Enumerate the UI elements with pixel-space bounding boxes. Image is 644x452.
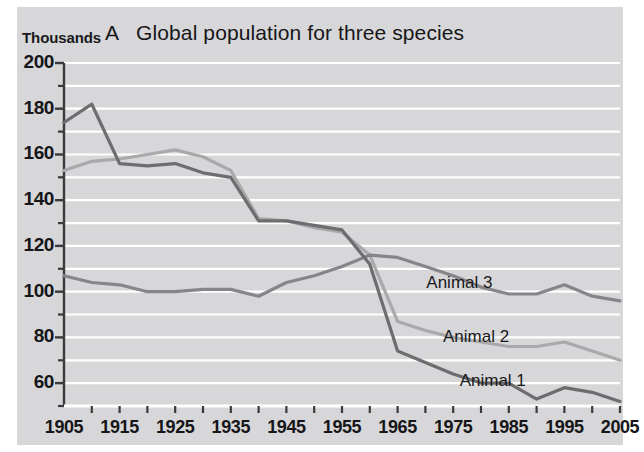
series-label-animal-3: Animal 3 xyxy=(426,273,492,293)
y-tick-label-160: 160 xyxy=(8,142,54,164)
y-tick-label-60: 60 xyxy=(8,371,54,393)
gridlines-group xyxy=(64,63,620,406)
x-tick-label-1975: 1975 xyxy=(423,417,483,438)
y-tick-label-80: 80 xyxy=(8,325,54,347)
data-series-group xyxy=(64,104,620,401)
x-tick-label-1955: 1955 xyxy=(312,417,372,438)
x-tick-label-1905: 1905 xyxy=(34,417,94,438)
x-tick-label-1935: 1935 xyxy=(201,417,261,438)
y-tick-label-120: 120 xyxy=(8,234,54,256)
x-tick-label-1965: 1965 xyxy=(368,417,428,438)
series-label-animal-1: Animal 1 xyxy=(460,371,526,391)
x-tick-label-2005: 2005 xyxy=(590,417,644,438)
x-tick-label-1945: 1945 xyxy=(256,417,316,438)
series-line-animal-2 xyxy=(64,150,620,360)
y-tick-label-100: 100 xyxy=(8,280,54,302)
x-tick-label-1995: 1995 xyxy=(534,417,594,438)
y-tick-label-200: 200 xyxy=(8,51,54,73)
series-line-animal-1 xyxy=(64,104,620,401)
axis-lines-group xyxy=(64,63,620,406)
x-tick-label-1915: 1915 xyxy=(90,417,150,438)
y-tick-label-180: 180 xyxy=(8,97,54,119)
series-label-animal-2: Animal 2 xyxy=(443,327,509,347)
x-tick-label-1925: 1925 xyxy=(145,417,205,438)
series-line-animal-3 xyxy=(64,255,620,301)
x-tick-label-1985: 1985 xyxy=(479,417,539,438)
y-tick-label-140: 140 xyxy=(8,188,54,210)
